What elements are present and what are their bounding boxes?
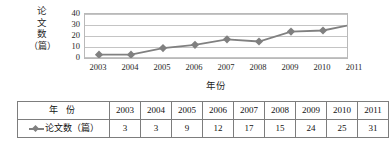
table-cell-year-2003: 2003 — [110, 102, 141, 120]
legend-line-diamond-icon — [29, 124, 44, 133]
table-cell-count-2008: 15 — [265, 120, 296, 138]
plot-area — [84, 13, 348, 59]
table-cell-year-2006: 2006 — [203, 102, 234, 120]
table-cell-count-2009: 24 — [296, 120, 327, 138]
table-header-paper-count: 论文数（篇） — [18, 120, 110, 138]
table-header-paper-count-label: 论文数（篇） — [45, 123, 99, 133]
x-tick-2005: 2005 — [147, 62, 177, 73]
gridlines — [85, 15, 347, 58]
plot-svg — [85, 14, 347, 58]
table-cell-year-2004: 2004 — [141, 102, 172, 120]
y-axis-tick-labels: 40 30 20 10 0 — [58, 9, 80, 55]
x-tick-2010: 2010 — [307, 62, 337, 73]
x-axis-tick-labels: 2003 2004 2005 2006 2007 2008 2009 2010 … — [84, 62, 348, 76]
table-cell-year-2007: 2007 — [234, 102, 265, 120]
table-row-years: 年 份 2003 2004 2005 2006 2007 2008 2009 2… — [18, 102, 389, 120]
y-axis-title-char-2: 文 — [22, 18, 62, 30]
table-cell-count-2010: 25 — [327, 120, 358, 138]
x-tick-2004: 2004 — [115, 62, 145, 73]
y-tick-40: 40 — [58, 9, 80, 18]
table-cell-year-2011: 2011 — [358, 102, 389, 120]
x-tick-2009: 2009 — [275, 62, 305, 73]
y-axis-title-unit: （篇） — [22, 41, 62, 53]
y-axis-title-char-3: 数 — [22, 29, 62, 41]
y-tick-20: 20 — [58, 31, 80, 40]
x-tick-2011: 2011 — [339, 62, 369, 73]
line-chart: 论 文 数 （篇） 40 30 20 10 0 — [0, 0, 366, 100]
data-table-wrapper: 年 份 2003 2004 2005 2006 2007 2008 2009 2… — [17, 101, 348, 138]
table-cell-year-2005: 2005 — [172, 102, 203, 120]
table-cell-count-2003: 3 — [110, 120, 141, 138]
y-axis-title: 论 文 数 （篇） — [22, 6, 62, 52]
data-table: 年 份 2003 2004 2005 2006 2007 2008 2009 2… — [17, 101, 389, 138]
table-header-year: 年 份 — [18, 102, 110, 120]
x-tick-2003: 2003 — [83, 62, 113, 73]
table-cell-count-2011: 31 — [358, 120, 389, 138]
x-tick-2007: 2007 — [211, 62, 241, 73]
table-cell-count-2007: 17 — [234, 120, 265, 138]
table-cell-year-2008: 2008 — [265, 102, 296, 120]
x-axis-title: 年份 — [84, 80, 348, 92]
y-tick-10: 10 — [58, 42, 80, 51]
table-cell-count-2005: 9 — [172, 120, 203, 138]
table-cell-count-2006: 12 — [203, 120, 234, 138]
table-cell-year-2010: 2010 — [327, 102, 358, 120]
x-tick-2008: 2008 — [243, 62, 273, 73]
x-tick-2006: 2006 — [179, 62, 209, 73]
table-cell-count-2004: 3 — [141, 120, 172, 138]
table-cell-year-2009: 2009 — [296, 102, 327, 120]
y-axis-title-char-1: 论 — [22, 6, 62, 18]
y-tick-0: 0 — [58, 53, 80, 62]
y-tick-30: 30 — [58, 20, 80, 29]
table-row-counts: 论文数（篇） 3 3 9 12 17 15 24 25 31 — [18, 120, 389, 138]
